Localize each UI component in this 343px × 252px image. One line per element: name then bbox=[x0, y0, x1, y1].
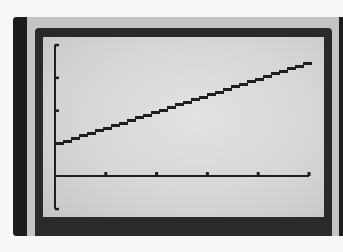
line-segment bbox=[143, 114, 152, 117]
line-segment bbox=[103, 127, 112, 130]
line-segment bbox=[71, 137, 80, 140]
line-segment bbox=[175, 103, 184, 106]
line-segment bbox=[295, 65, 304, 68]
line-segment bbox=[127, 119, 136, 122]
line-segment bbox=[87, 132, 96, 135]
x-tick bbox=[257, 172, 260, 176]
graph-plot bbox=[0, 0, 343, 252]
y-tick bbox=[55, 109, 59, 112]
x-tick bbox=[308, 172, 311, 176]
line-segment bbox=[79, 134, 88, 137]
line-segment bbox=[151, 111, 160, 114]
axes bbox=[55, 44, 311, 211]
line-segment bbox=[55, 142, 64, 145]
line-segment bbox=[263, 75, 272, 78]
line-segment bbox=[279, 70, 288, 73]
x-tick bbox=[104, 172, 107, 176]
line-segment bbox=[247, 80, 256, 83]
line-segment bbox=[303, 62, 312, 65]
line-segment bbox=[159, 109, 168, 112]
y-tick bbox=[55, 208, 59, 211]
line-segment bbox=[271, 72, 280, 75]
x-tick bbox=[155, 172, 158, 176]
line-segment bbox=[167, 106, 176, 109]
line-segment bbox=[215, 91, 224, 94]
line-segment bbox=[239, 83, 248, 86]
line-segment bbox=[231, 85, 240, 88]
line-segment bbox=[183, 101, 192, 104]
line-segment bbox=[255, 78, 264, 81]
line-segment bbox=[119, 122, 128, 125]
line-segment bbox=[191, 98, 200, 101]
line-segment bbox=[95, 129, 104, 132]
x-tick bbox=[206, 172, 209, 176]
line-segment bbox=[223, 88, 232, 91]
line-segment bbox=[63, 140, 72, 143]
line-segment bbox=[287, 67, 296, 70]
line-segment bbox=[135, 116, 144, 119]
graph-line bbox=[55, 62, 312, 145]
line-segment bbox=[207, 93, 216, 96]
y-tick bbox=[55, 44, 59, 47]
y-tick bbox=[55, 77, 59, 80]
line-segment bbox=[199, 96, 208, 99]
line-segment bbox=[111, 124, 120, 127]
